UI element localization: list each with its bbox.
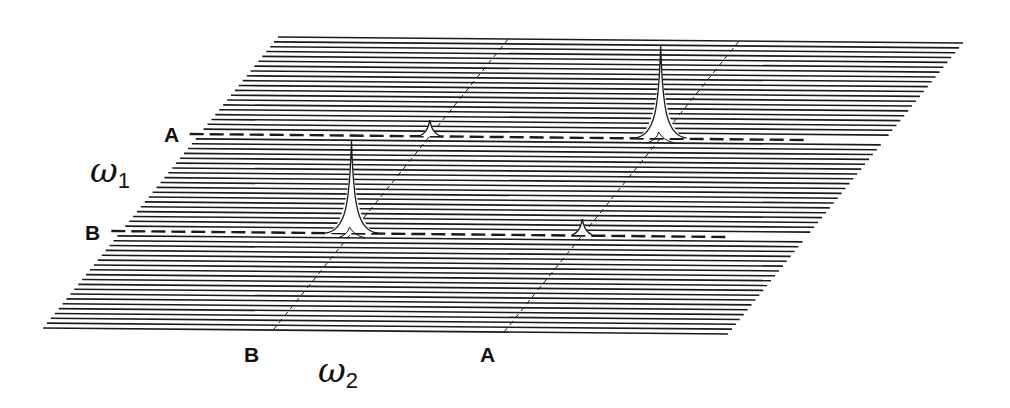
stacked-2d-spectrum-figure: A B B A ω1 ω2 xyxy=(0,0,1010,408)
stacked-trace-plot xyxy=(0,0,1010,408)
omega1-subscript: 1 xyxy=(118,168,130,193)
column-label-b: B xyxy=(244,343,259,367)
trace-lines xyxy=(43,37,963,334)
row-label-b: B xyxy=(85,221,100,245)
omega2-subscript: 2 xyxy=(346,368,358,393)
omega1-symbol: ω xyxy=(90,150,118,190)
column-label-a: A xyxy=(480,343,495,367)
axis-label-omega2: ω2 xyxy=(318,350,358,394)
row-label-a: A xyxy=(164,123,179,147)
axis-label-omega1: ω1 xyxy=(90,150,130,194)
omega2-symbol: ω xyxy=(318,350,346,390)
